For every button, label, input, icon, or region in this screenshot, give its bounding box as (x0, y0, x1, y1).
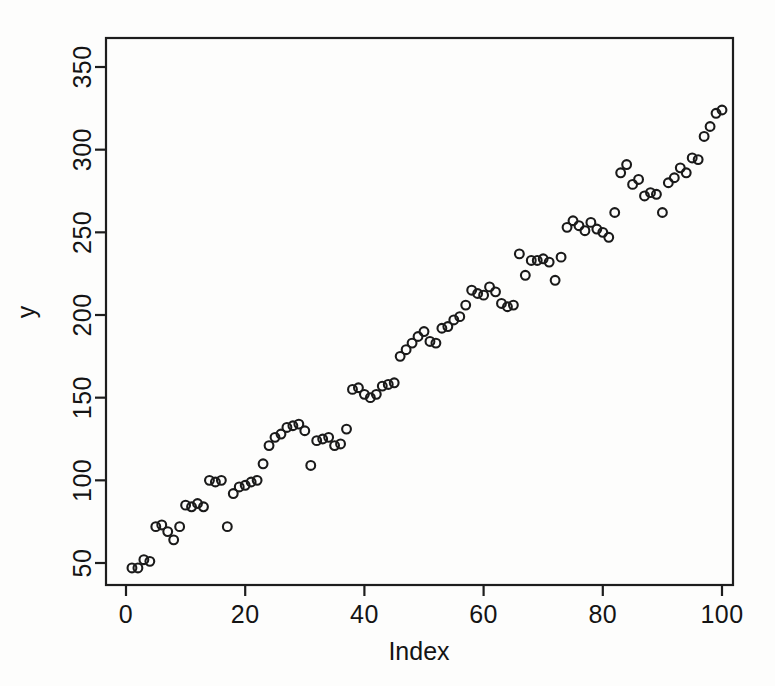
data-point (163, 527, 172, 536)
data-point (694, 155, 703, 164)
data-point (342, 425, 351, 434)
data-point (509, 301, 518, 310)
data-point (479, 291, 488, 300)
data-point (521, 271, 530, 280)
data-point (175, 522, 184, 531)
x-tick-label: 20 (231, 600, 260, 628)
data-point (318, 435, 327, 444)
data-point (306, 461, 315, 470)
data-point (682, 168, 691, 177)
y-tick-label: 150 (68, 376, 96, 419)
data-point (169, 535, 178, 544)
data-point (610, 208, 619, 217)
data-point (515, 249, 524, 258)
data-point (324, 433, 333, 442)
data-point (658, 208, 667, 217)
y-tick-label: 200 (68, 293, 96, 336)
data-point (634, 175, 643, 184)
x-tick-label: 60 (469, 600, 498, 628)
y-axis-tick-labels: 50100150200250300350 (68, 45, 96, 577)
data-point (700, 132, 709, 141)
x-axis-tick-labels: 020406080100 (119, 600, 744, 628)
plot-canvas: 020406080100 50100150200250300350 Index … (0, 0, 775, 686)
data-point (151, 522, 160, 531)
y-tick-label: 100 (68, 459, 96, 502)
data-point (259, 459, 268, 468)
data-point (265, 441, 274, 450)
data-point (616, 168, 625, 177)
data-point (205, 476, 214, 485)
data-point (300, 426, 309, 435)
data-point (670, 173, 679, 182)
data-point (217, 476, 226, 485)
x-axis-title: Index (388, 637, 450, 665)
data-point (134, 564, 143, 573)
data-point (384, 380, 393, 389)
data-point (283, 423, 292, 432)
x-tick-label: 0 (119, 600, 133, 628)
data-point (235, 483, 244, 492)
data-point (348, 385, 357, 394)
x-tick-label: 80 (588, 600, 617, 628)
y-tick-label: 350 (68, 45, 96, 88)
data-point (432, 339, 441, 348)
data-point (253, 476, 262, 485)
data-point (330, 441, 339, 450)
data-point (378, 382, 387, 391)
data-point (581, 226, 590, 235)
data-point (288, 421, 297, 430)
data-point (426, 337, 435, 346)
data-point (622, 160, 631, 169)
data-points-layer (128, 106, 727, 573)
data-point (706, 122, 715, 131)
data-point (312, 436, 321, 445)
data-point (211, 478, 220, 487)
data-point (551, 276, 560, 285)
x-tick-label: 100 (700, 600, 743, 628)
data-point (145, 557, 154, 566)
data-point (390, 378, 399, 387)
y-tick-label: 300 (68, 128, 96, 171)
y-tick-label: 50 (68, 549, 96, 578)
data-point (181, 501, 190, 510)
data-point (533, 256, 542, 265)
y-tick-label: 250 (68, 211, 96, 254)
data-point (336, 440, 345, 449)
data-point (420, 327, 429, 336)
data-point (557, 253, 566, 262)
data-point (652, 190, 661, 199)
data-point (688, 154, 697, 163)
data-point (604, 233, 613, 242)
scatter-plot-figure: 020406080100 50100150200250300350 Index … (0, 0, 775, 686)
axis-tick-marks (95, 67, 722, 596)
x-tick-label: 40 (350, 600, 379, 628)
data-point (223, 522, 232, 531)
data-point (437, 324, 446, 333)
data-point (139, 555, 148, 564)
data-point (491, 287, 500, 296)
y-axis-title: y (12, 305, 40, 318)
data-point (461, 301, 470, 310)
